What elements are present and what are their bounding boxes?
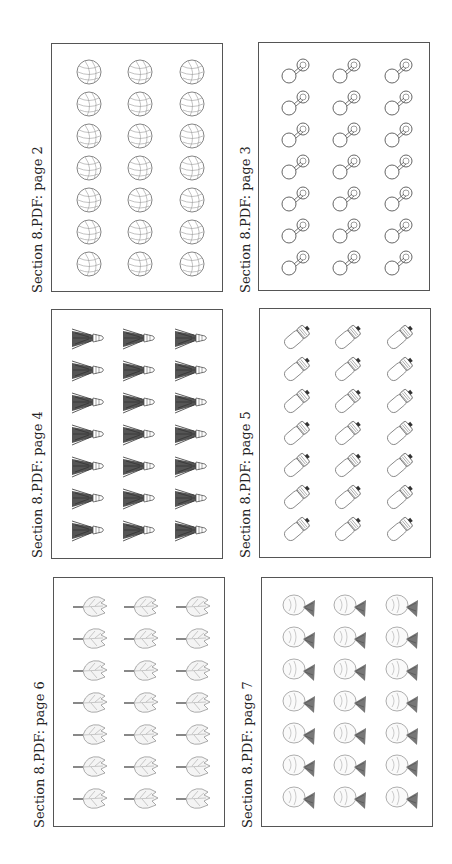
dumbbell-pin-icon: [379, 152, 419, 182]
fish-icon: [382, 591, 422, 621]
leaf-icon: [122, 719, 162, 749]
globe-ball-icon: [120, 217, 160, 247]
fish-icon: [382, 687, 422, 717]
fish-icon: [330, 719, 370, 749]
shuttlecock-icon: [120, 515, 160, 545]
dumbbell-pin-icon: [327, 56, 367, 86]
globe-ball-icon: [69, 121, 109, 151]
leaf-icon: [174, 687, 214, 717]
spray-can-icon: [380, 514, 420, 544]
shuttlecock-icon: [120, 419, 160, 449]
leaf-icon: [122, 591, 162, 621]
fish-icon: [330, 591, 370, 621]
dumbbell-pin-icon: [327, 88, 367, 118]
globe-ball-icon: [172, 57, 212, 87]
dumbbell-pin-icon: [327, 120, 367, 150]
page-thumbnail-5[interactable]: [259, 308, 431, 558]
spray-can-icon: [277, 514, 317, 544]
spray-can-icon: [380, 418, 420, 448]
dumbbell-pin-icon: [379, 184, 419, 214]
leaf-icon: [174, 623, 214, 653]
globe-ball-icon: [172, 185, 212, 215]
fish-icon: [279, 687, 319, 717]
page-label: Section 8.PDF: page 5: [238, 411, 253, 558]
shuttlecock-icon: [172, 451, 212, 481]
spray-can-icon: [277, 482, 317, 512]
spray-can-icon: [328, 450, 368, 480]
shuttlecock-icon: [172, 355, 212, 385]
leaf-icon: [174, 591, 214, 621]
fish-icon: [382, 623, 422, 653]
fish-icon: [382, 719, 422, 749]
leaf-icon: [71, 687, 111, 717]
fish-icon: [330, 623, 370, 653]
dumbbell-pin-icon: [379, 56, 419, 86]
spray-can-icon: [380, 354, 420, 384]
page-thumbnail-3[interactable]: [258, 42, 430, 291]
leaf-icon: [174, 783, 214, 813]
spray-can-icon: [277, 450, 317, 480]
leaf-icon: [71, 591, 111, 621]
shuttlecock-icon: [172, 387, 212, 417]
fish-icon: [330, 783, 370, 813]
page-label: Section 8.PDF: page 7: [240, 681, 255, 828]
page-label: Section 8.PDF: page 4: [30, 411, 45, 558]
spray-can-icon: [328, 482, 368, 512]
page-thumbnail-4[interactable]: [51, 309, 223, 559]
shuttlecock-icon: [69, 387, 109, 417]
shuttlecock-icon: [69, 323, 109, 353]
spray-can-icon: [380, 450, 420, 480]
dumbbell-pin-icon: [276, 120, 316, 150]
dumbbell-pin-icon: [276, 152, 316, 182]
globe-ball-icon: [120, 185, 160, 215]
leaf-icon: [71, 623, 111, 653]
shuttlecock-icon: [172, 323, 212, 353]
dumbbell-pin-icon: [276, 88, 316, 118]
fish-icon: [279, 719, 319, 749]
spray-can-icon: [328, 322, 368, 352]
shuttlecock-icon: [120, 323, 160, 353]
shuttlecock-icon: [69, 355, 109, 385]
fish-icon: [279, 783, 319, 813]
leaf-icon: [122, 751, 162, 781]
globe-ball-icon: [120, 121, 160, 151]
fish-icon: [279, 655, 319, 685]
leaf-icon: [122, 687, 162, 717]
shuttlecock-icon: [69, 451, 109, 481]
globe-ball-icon: [120, 57, 160, 87]
spray-can-icon: [328, 354, 368, 384]
page-thumbnail-6[interactable]: [53, 577, 225, 827]
fish-icon: [330, 687, 370, 717]
spray-can-icon: [277, 354, 317, 384]
page-label: Section 8.PDF: page 2: [30, 146, 45, 293]
leaf-icon: [174, 751, 214, 781]
dumbbell-pin-icon: [327, 248, 367, 278]
dumbbell-pin-icon: [327, 216, 367, 246]
shuttlecock-icon: [120, 483, 160, 513]
dumbbell-pin-icon: [276, 56, 316, 86]
dumbbell-pin-icon: [327, 152, 367, 182]
page-label: Section 8.PDF: page 3: [238, 146, 253, 293]
leaf-icon: [122, 623, 162, 653]
globe-ball-icon: [69, 57, 109, 87]
spray-can-icon: [380, 386, 420, 416]
globe-ball-icon: [172, 249, 212, 279]
dumbbell-pin-icon: [379, 88, 419, 118]
spray-can-icon: [328, 514, 368, 544]
shuttlecock-icon: [172, 515, 212, 545]
shuttlecock-icon: [172, 419, 212, 449]
globe-ball-icon: [69, 153, 109, 183]
fish-icon: [279, 751, 319, 781]
leaf-icon: [71, 655, 111, 685]
spray-can-icon: [277, 386, 317, 416]
shuttlecock-icon: [120, 355, 160, 385]
page-thumbnail-7[interactable]: [261, 577, 433, 827]
spray-can-icon: [380, 322, 420, 352]
spray-can-icon: [277, 418, 317, 448]
page-thumbnail-2[interactable]: [51, 43, 223, 292]
globe-ball-icon: [172, 121, 212, 151]
fish-icon: [330, 655, 370, 685]
fish-icon: [330, 751, 370, 781]
spray-can-icon: [328, 386, 368, 416]
globe-ball-icon: [69, 89, 109, 119]
